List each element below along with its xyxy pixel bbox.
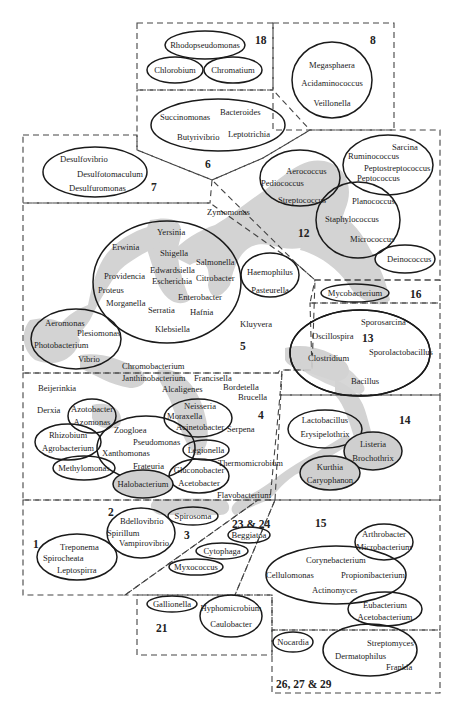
genus-label: Cytophaga bbox=[203, 546, 240, 556]
genus-label: Spirillum bbox=[107, 528, 140, 538]
genus-label: Spirocheata bbox=[43, 553, 84, 563]
genus-label: Veillonella bbox=[313, 98, 350, 108]
group-21: Gallionella Hyphomicrobium Caulobacter 2… bbox=[147, 595, 262, 637]
genus-label: Mycobacterium bbox=[328, 288, 383, 298]
genus-label: Peptostreptococcus bbox=[364, 163, 431, 173]
group-8: Megasphaera Acidaminococcus Veillonella … bbox=[292, 34, 376, 118]
genus-label: Aeromonas bbox=[45, 318, 85, 328]
group-6: Succinomonas Bacteroides Butyrivibrio Le… bbox=[151, 99, 285, 170]
group-number: 23 & 24 bbox=[232, 518, 271, 530]
genus-label: Acetobacter bbox=[178, 478, 220, 488]
genus-label: Caulobacter bbox=[210, 619, 252, 629]
genus-label: Derxia bbox=[37, 405, 61, 415]
genus-label: Pediococcus bbox=[261, 178, 305, 188]
genus-label: Rhizobium bbox=[49, 430, 88, 440]
genus-label: Leptospirra bbox=[57, 565, 97, 575]
group-number: 12 bbox=[298, 227, 310, 239]
genus-label: Zoogloea bbox=[114, 425, 147, 435]
group-4: Janthinobacterium Francisella Beijerinki… bbox=[35, 373, 283, 500]
genus-label: Shigella bbox=[160, 248, 188, 258]
genus-label: Chromobacterium bbox=[122, 361, 185, 371]
genus-label: Rhodopseudomonas bbox=[170, 40, 240, 50]
genus-label: Bordetella bbox=[223, 382, 259, 392]
genus-label: Actinomyces bbox=[312, 585, 358, 595]
genus-label: Klebsiella bbox=[155, 324, 190, 334]
genus-label: Desulfovibrio bbox=[60, 154, 108, 164]
group-number: 4 bbox=[258, 409, 264, 421]
genus-label: Myxococcus bbox=[174, 562, 219, 572]
genus-label: Thermomicrobium bbox=[218, 458, 283, 468]
genus-label: Agrobacterium bbox=[42, 443, 94, 453]
genus-label: Citrobacter bbox=[196, 273, 235, 283]
genus-label: Megasphaera bbox=[309, 60, 355, 70]
genus-label: Peptococcus bbox=[357, 173, 401, 183]
genus-label: Micrococcus bbox=[350, 234, 395, 244]
genus-label: Plesiomonas bbox=[77, 328, 121, 338]
genus-label: Azotobacter bbox=[71, 404, 113, 414]
genus-label: Bacillus bbox=[351, 376, 380, 386]
genus-label: Beijerinkia bbox=[38, 383, 76, 393]
genus-label: Legionella bbox=[188, 445, 225, 455]
genus-label: Frateuria bbox=[133, 461, 164, 471]
genus-label: Erysipelothrix bbox=[300, 429, 350, 439]
group-number: 16 bbox=[410, 288, 422, 300]
group-number: 18 bbox=[255, 34, 267, 46]
genus-label: Neisseria bbox=[184, 401, 216, 411]
genus-label: Acetobacterium bbox=[358, 612, 413, 622]
genus-label: Serratia bbox=[148, 305, 175, 315]
genus-label: Chromatium bbox=[211, 65, 255, 75]
genus-label: Dermatophilus bbox=[335, 651, 387, 661]
genus-label: Zymomonas bbox=[207, 207, 251, 217]
genus-label: Edwardsiella bbox=[150, 265, 195, 275]
genus-label: Planococcus bbox=[352, 196, 396, 206]
genus-label: Sporolactobacillus bbox=[369, 347, 434, 357]
group-1: Treponema Spirocheata Leptospirra 1 bbox=[33, 534, 117, 580]
genus-label: Chlorobium bbox=[154, 65, 196, 75]
genus-label: Vibrio bbox=[78, 354, 100, 364]
genus-label: Moraxella bbox=[167, 411, 203, 421]
genus-label: Hyphomicrobium bbox=[200, 603, 261, 613]
group-number: 5 bbox=[240, 340, 246, 352]
genus-label: Proteus bbox=[98, 285, 124, 295]
genus-label: Erwinia bbox=[112, 242, 139, 252]
genus-label: Kluyvera bbox=[240, 319, 272, 329]
genus-label: Flavobacterium bbox=[217, 490, 271, 500]
group-18: Rhodopseudomonas Chlorobium Chromatium 1… bbox=[147, 31, 267, 83]
group-number: 3 bbox=[184, 529, 190, 541]
genus-label: Providencia bbox=[104, 271, 145, 281]
genus-label: Hafnia bbox=[190, 307, 214, 317]
genus-label: Succinomonas bbox=[160, 112, 211, 122]
genus-label: Sporosarcina bbox=[361, 317, 406, 327]
genus-label: Lactobacillus bbox=[302, 415, 349, 425]
genus-label: Clostridium bbox=[308, 353, 349, 363]
genus-label: Bacteroides bbox=[220, 107, 261, 117]
genus-label: Ruminococcus bbox=[348, 151, 400, 161]
group-number: 15 bbox=[315, 517, 327, 529]
group-number: 6 bbox=[205, 158, 211, 170]
genus-label: Vampirovibrio bbox=[119, 538, 169, 548]
genus-label: Janthinobacterium bbox=[122, 373, 186, 383]
genus-label: Eubacterium bbox=[363, 600, 407, 610]
genus-label: Yersinia bbox=[157, 227, 185, 237]
genus-label: Xanthomonas bbox=[102, 448, 150, 458]
genus-label: Alcaligenes bbox=[162, 384, 203, 394]
genus-label: Photobacterium bbox=[34, 340, 89, 350]
group-number: 14 bbox=[399, 414, 411, 426]
genus-label: Leptotrichia bbox=[228, 129, 270, 139]
genus-label: Streptococcus bbox=[278, 195, 327, 205]
genus-label: Halobacterium bbox=[117, 479, 168, 489]
genus-label: Deinococcus bbox=[387, 254, 432, 264]
genus-label: Morganella bbox=[106, 298, 146, 308]
group-number: 1 bbox=[33, 538, 39, 550]
genus-label: Arthrobacter bbox=[362, 529, 406, 539]
genus-label: Cellulomonas bbox=[266, 570, 314, 580]
genus-label: Haemophilus bbox=[247, 267, 293, 277]
group-number: 8 bbox=[370, 34, 376, 46]
genus-label: Beggiatoa bbox=[232, 530, 267, 540]
genus-label: Brochothrix bbox=[352, 453, 394, 463]
genus-label: Desulfuromonas bbox=[69, 183, 126, 193]
genus-label: Bdellovibrio bbox=[120, 516, 163, 526]
genus-label: Enterobacter bbox=[178, 292, 222, 302]
genus-label: Methylomonas bbox=[58, 463, 110, 473]
genus-label: Treponema bbox=[60, 542, 99, 552]
